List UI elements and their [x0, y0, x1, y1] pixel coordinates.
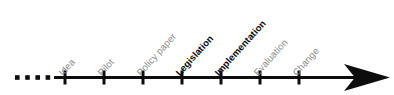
- dotted-lead-in-icon: [15, 75, 50, 80]
- policy-process-timeline-figure: Idea Pilot Policy paper Legislation Impl…: [0, 0, 394, 95]
